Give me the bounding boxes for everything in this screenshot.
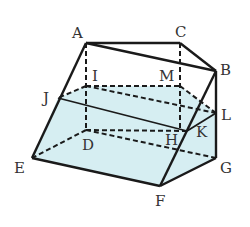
label-C: C: [175, 23, 186, 41]
prism-diagram: A C B I M J L D H K E F G: [0, 0, 250, 227]
label-M: M: [159, 67, 174, 85]
label-B: B: [220, 61, 231, 79]
label-G: G: [220, 159, 232, 177]
label-J: J: [41, 89, 49, 107]
label-A: A: [71, 24, 83, 42]
label-L: L: [221, 106, 231, 124]
label-K: K: [196, 123, 208, 141]
label-D: D: [82, 136, 94, 154]
label-H: H: [165, 131, 178, 149]
label-F: F: [155, 192, 165, 210]
label-I: I: [92, 67, 98, 85]
label-E: E: [14, 159, 25, 177]
